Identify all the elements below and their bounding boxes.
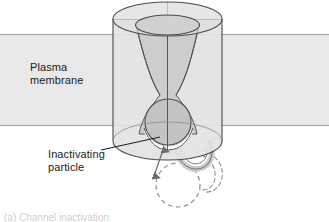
channel-layer bbox=[0, 0, 329, 222]
inactivating-particle-group bbox=[144, 99, 193, 150]
plasma-membrane-label: Plasma membrane bbox=[30, 61, 83, 87]
ion-channel-inactivation-figure: Plasma membrane Inactivating particle (a… bbox=[0, 0, 329, 222]
channel-cylinder bbox=[113, 2, 222, 160]
pore-mouth-ellipse bbox=[136, 15, 200, 35]
inactivating-particle-label: Inactivating particle bbox=[48, 148, 105, 174]
figure-caption-clipped: (a) Channel inactivation bbox=[4, 212, 109, 222]
